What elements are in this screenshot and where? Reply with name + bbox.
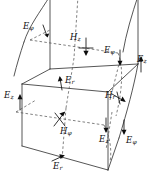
label-symbol: H <box>70 32 77 42</box>
label-subscript: z <box>105 137 108 144</box>
label-e-r-center: Er <box>65 76 74 85</box>
hidden-lower-left-depth <box>16 100 36 112</box>
label-subscript: r <box>113 93 116 100</box>
hidden-upper-center-vertical <box>74 0 78 58</box>
front-block-top-face <box>22 64 138 92</box>
label-h-z-top-center: Hz <box>70 33 81 42</box>
label-e-r-bottom: Er <box>53 162 62 171</box>
label-symbol: H <box>105 90 112 100</box>
label-h-phi-bottom-center: Hφ <box>60 127 72 136</box>
lower-right-outer-bottom <box>108 138 119 170</box>
front-bottom-edge <box>22 146 108 170</box>
label-e-phi-top-left: Eφ <box>23 22 34 31</box>
label-subscript: φ <box>132 138 136 145</box>
label-subscript: z <box>78 35 81 42</box>
label-e-z-right-upper: Ez <box>137 55 147 64</box>
lower-left-outer-arc-top <box>14 42 24 76</box>
label-subscript: r <box>71 78 74 85</box>
arrow-e-phi-top-right <box>118 50 123 66</box>
label-symbol: H <box>60 126 67 136</box>
label-e-z-bottom-right: Ez <box>99 135 109 144</box>
upper-right-outer-arc <box>123 0 138 52</box>
top-face-right-edge <box>108 64 138 92</box>
upper-block-edges <box>50 0 138 69</box>
arrow-h-z-top-center <box>79 38 93 56</box>
upper-back-bottom-edge <box>50 64 138 69</box>
label-subscript: φ <box>110 48 114 55</box>
label-subscript: φ <box>29 24 33 31</box>
top-face-left-edge <box>22 69 50 84</box>
label-subscript: r <box>59 164 62 171</box>
label-subscript: φ <box>68 129 72 136</box>
label-subscript: z <box>10 93 13 100</box>
label-e-phi-bottom-right: Eφ <box>126 136 137 145</box>
cylindrical-yee-cell-figure: Eφ Hz Eφ Ez Er Ez Hr Hφ Ez Eφ Er <box>0 0 151 178</box>
label-h-r-right: Hr <box>105 91 115 100</box>
label-e-phi-top-right: Eφ <box>104 46 115 55</box>
arrow-e-phi-top-left <box>43 25 49 38</box>
label-e-z-left: Ez <box>4 91 14 100</box>
label-subscript: z <box>143 57 146 64</box>
